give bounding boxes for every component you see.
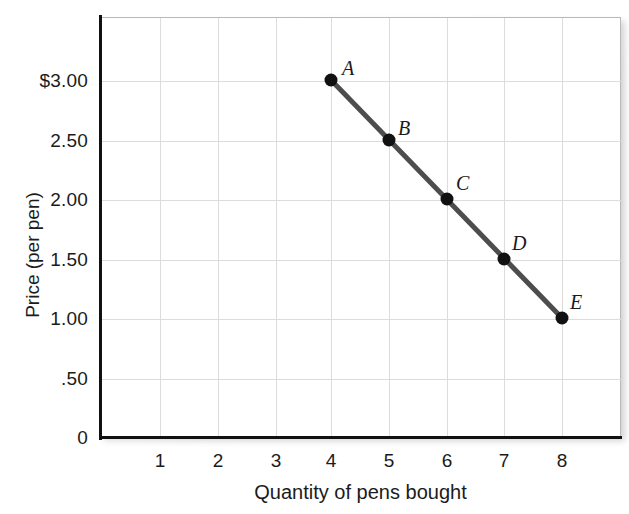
data-point-label-b: B	[398, 118, 410, 138]
gridline-horizontal	[100, 81, 621, 82]
gridline-horizontal	[100, 260, 621, 261]
x-tick-label: 8	[547, 451, 577, 470]
x-tick-label: 4	[316, 451, 346, 470]
gridline-horizontal	[100, 200, 621, 201]
plot-area	[100, 17, 621, 437]
gridline-horizontal	[100, 141, 621, 142]
y-tick-label: 0	[77, 428, 88, 447]
y-axis-line	[99, 15, 102, 440]
data-point-label-a: A	[342, 58, 354, 78]
x-tick-label: 7	[489, 451, 519, 470]
y-tick-label: 2.50	[50, 131, 88, 150]
y-tick-label: .50	[61, 369, 88, 388]
x-tick-label: 2	[203, 451, 233, 470]
x-tick-label: 1	[145, 451, 175, 470]
y-tick-label: $3.00	[39, 71, 88, 90]
gridline-horizontal	[100, 319, 621, 320]
y-tick-label: 2.00	[50, 190, 88, 209]
chart-figure: $3.00 2.50 2.00 1.50 1.00 .50 0 1 2 3 4 …	[0, 0, 629, 514]
y-axis-title: Price (per pen)	[22, 125, 44, 385]
x-tick-label: 5	[374, 451, 404, 470]
y-tick-label: 1.00	[50, 309, 88, 328]
gridline-horizontal	[100, 379, 621, 380]
data-point-label-c: C	[456, 173, 469, 193]
x-axis-title: Quantity of pens bought	[100, 481, 621, 504]
x-axis-line	[99, 436, 622, 439]
data-point-label-d: D	[512, 233, 526, 253]
x-tick-label: 6	[432, 451, 462, 470]
x-tick-label: 3	[261, 451, 291, 470]
data-point-label-e: E	[570, 292, 582, 312]
y-tick-label: 1.50	[50, 250, 88, 269]
